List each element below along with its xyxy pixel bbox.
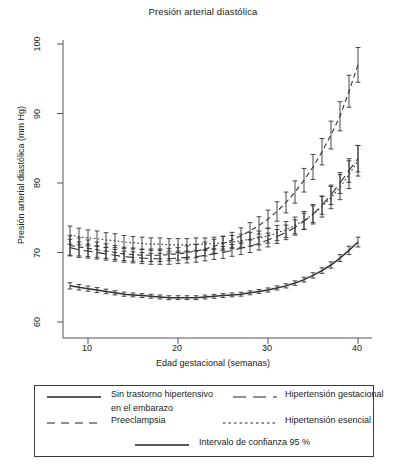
legend-swatch-sin-trastorno (45, 392, 103, 402)
data-series-layer (68, 47, 361, 299)
legend-swatch-intervalo-confianza (133, 440, 191, 450)
legend-label-hipertension-gestacional: Hipertensión gestacional (285, 389, 384, 399)
legend-label-preeclampsia: Preeclampsia (111, 415, 166, 425)
chart-figure: Presión arterial diastólica Presión arte… (0, 0, 406, 473)
series-line-3 (70, 161, 358, 245)
legend-label-sin-trastorno: Sin trastorno hipertensivo (111, 389, 213, 399)
legend-swatch-hipertension-gestacional (231, 392, 279, 402)
legend-swatch-hipertension-esencial (221, 418, 279, 428)
series-2 (68, 47, 361, 261)
legend-swatch-preeclampsia (45, 418, 103, 428)
error-bars (68, 47, 361, 261)
chart-legend: Sin trastorno hipertensivo en el embaraz… (34, 385, 374, 457)
legend-label-intervalo-confianza: Intervalo de confianza 95 % (199, 437, 310, 447)
legend-label-sin-trastorno-line2: en el embarazo (111, 403, 173, 413)
legend-label-hipertension-esencial: Hipertensión esencial (285, 415, 371, 425)
series-line-2 (70, 65, 358, 255)
